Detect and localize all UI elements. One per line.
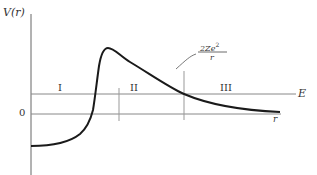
formula-leader: [176, 54, 196, 69]
energy-label: E: [298, 87, 306, 100]
y-axis-label: V(r): [3, 6, 25, 19]
formula-denominator: r: [210, 53, 214, 62]
r-axis-label: r: [273, 114, 277, 124]
potential-diagram: [0, 0, 317, 175]
region-label-II: II: [130, 82, 138, 93]
formula-numerator: 2Ze2: [200, 41, 219, 53]
potential-curve: [31, 48, 280, 146]
formula-numerator-text: 2Ze: [200, 44, 215, 53]
region-label-I: I: [58, 82, 62, 93]
formula-superscript: 2: [215, 41, 219, 48]
zero-label: 0: [19, 107, 25, 118]
region-label-III: III: [220, 82, 232, 93]
